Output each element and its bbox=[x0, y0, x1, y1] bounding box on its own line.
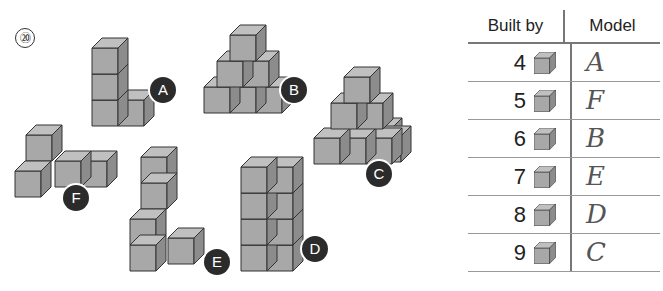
figure-b bbox=[204, 25, 292, 113]
cube-count: 8 bbox=[514, 202, 526, 228]
label-c: C bbox=[366, 161, 392, 187]
figure-c bbox=[314, 67, 411, 164]
model-answer[interactable]: A bbox=[570, 44, 660, 81]
model-answer[interactable]: F bbox=[570, 82, 660, 119]
label-a: A bbox=[150, 77, 176, 103]
label-e: E bbox=[204, 249, 230, 275]
table-row: 4 A bbox=[468, 44, 660, 82]
table-row: 5 F bbox=[468, 82, 660, 120]
header-model: Model bbox=[563, 10, 660, 42]
cube-count: 7 bbox=[514, 164, 526, 190]
label-b: B bbox=[281, 77, 307, 103]
model-answer[interactable]: E bbox=[570, 158, 660, 195]
cube-icon bbox=[534, 90, 556, 112]
cube-icon bbox=[534, 166, 556, 188]
cube-count: 4 bbox=[514, 50, 526, 76]
model-answer[interactable]: D bbox=[570, 196, 660, 233]
answer-table: Built by Model 4 A 5 F 6 B 7 E 8 D 9 C bbox=[468, 10, 660, 272]
table-row: 6 B bbox=[468, 120, 660, 158]
model-answer[interactable]: C bbox=[570, 234, 660, 271]
cube-icon bbox=[534, 128, 556, 150]
figure-e bbox=[130, 147, 204, 271]
label-d: D bbox=[302, 236, 328, 262]
figure-f bbox=[15, 125, 117, 197]
cube-count: 6 bbox=[514, 126, 526, 152]
cube-icon bbox=[534, 52, 556, 74]
table-row: 9 C bbox=[468, 234, 660, 272]
label-f: F bbox=[63, 185, 89, 211]
table-header: Built by Model bbox=[468, 10, 660, 44]
cube-figures bbox=[0, 0, 460, 291]
cube-icon bbox=[534, 204, 556, 226]
header-built-by: Built by bbox=[468, 10, 563, 42]
table-row: 7 E bbox=[468, 158, 660, 196]
figure-d bbox=[241, 157, 303, 271]
figure-a bbox=[92, 38, 154, 126]
cube-count: 9 bbox=[514, 240, 526, 266]
cube-icon bbox=[534, 242, 556, 264]
table-row: 8 D bbox=[468, 196, 660, 234]
cube-count: 5 bbox=[514, 88, 526, 114]
model-answer[interactable]: B bbox=[570, 120, 660, 157]
